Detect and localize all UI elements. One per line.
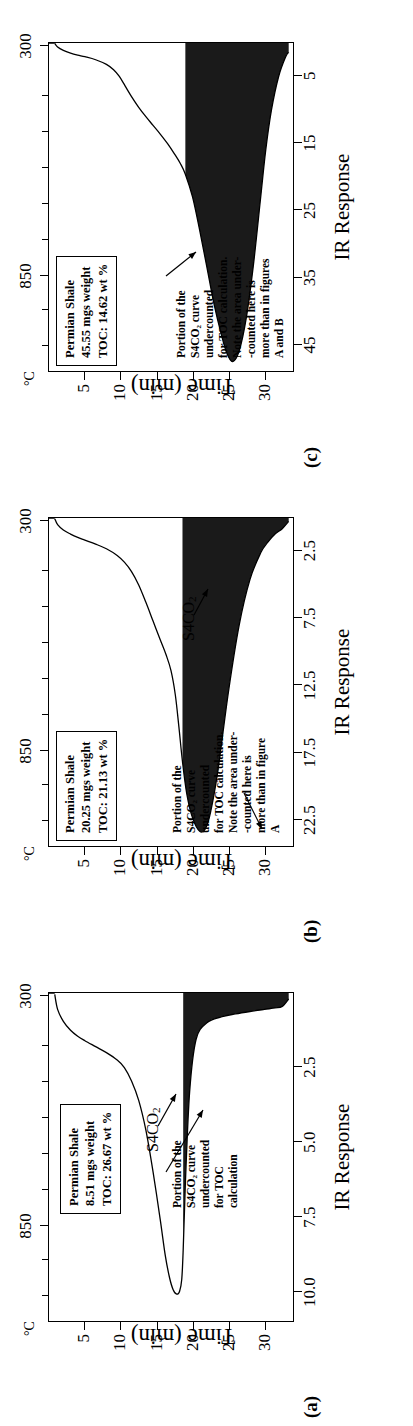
s4co2-pointer-a	[0, 951, 413, 1426]
s4co2-arrow-head-a	[170, 1094, 176, 1102]
chart-panel-a: (a)10.07.55.02.5IR Response51015202530Ti…	[0, 951, 413, 1426]
s4co2-pointer-b	[0, 476, 413, 951]
s4co2-arrow-head-b	[202, 589, 208, 597]
figure-stage: (a)10.07.55.02.5IR Response51015202530Ti…	[0, 0, 413, 1426]
chart-panel-b: (b)22.517.512.57.52.5IR Response51015202…	[0, 476, 413, 951]
annotation-arrow-c	[0, 1, 413, 476]
chart-panel-c: (c)453525155IR Response51015202530Time (…	[0, 1, 413, 476]
